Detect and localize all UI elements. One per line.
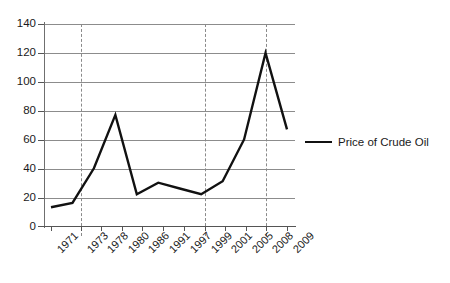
legend-line-swatch: [305, 141, 332, 143]
series-line-price-of-crude-oil: [51, 53, 287, 207]
legend-item-label: Price of Crude Oil: [338, 136, 429, 148]
line-chart: 140 120 100 80 60 40 20 0 1: [0, 0, 450, 283]
legend: Price of Crude Oil: [305, 136, 429, 148]
